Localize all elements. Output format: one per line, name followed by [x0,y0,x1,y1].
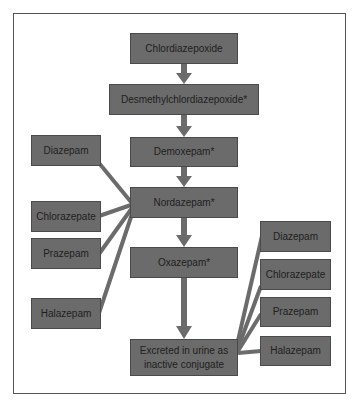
left-node-prazepam: Prazepam [31,238,101,269]
node-chlordiazepoxide: Chlordiazepoxide [130,33,238,64]
left-node-diazepam: Diazepam [31,135,101,166]
right-node-prazepam: Prazepam [260,297,331,327]
arrow-oxazepam-to-excreted [176,278,192,339]
node-oxazepam: Oxazepam* [130,247,238,278]
arrow-nordazepam-to-oxazepam [176,218,192,247]
arrow-chlordiazepoxide-to-desmethyl [176,64,192,84]
node-nordazepam: Nordazepam* [130,187,238,218]
left-node-halazepam: Halazepam [31,298,101,329]
arrow-demoxepam-to-nordazepam [176,167,192,187]
node-demoxepam: Demoxepam* [130,137,238,167]
right-node-diazepam: Diazepam [260,221,331,252]
arrow-desmethyl-to-demoxepam [176,115,192,137]
node-desmethylchlordiazepoxide: Desmethylchlordiazepoxide* [109,84,259,115]
right-node-chlorazepate: Chlorazepate [260,259,331,290]
left-node-chlorazepate: Chlorazepate [31,201,101,232]
right-node-halazepam: Halazepam [260,336,331,366]
node-excreted: Excreted in urine as inactive conjugate [130,339,238,376]
